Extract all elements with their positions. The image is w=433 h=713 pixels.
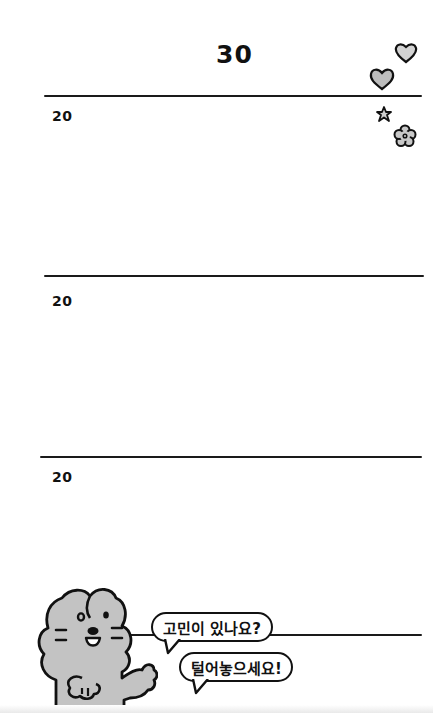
section-label: 20	[52, 469, 72, 485]
heart-icon	[394, 42, 418, 64]
bunny-illustration	[36, 584, 158, 713]
speech-text: 고민이 있나요?	[163, 620, 261, 638]
speech-bubble: 털어놓으세요!	[179, 652, 293, 682]
divider-line	[40, 456, 422, 458]
heart-icon	[369, 67, 395, 91]
section-label: 20	[52, 293, 72, 309]
page-title: 30	[0, 40, 433, 69]
section-label: 20	[52, 108, 72, 124]
bubble-tail	[192, 679, 210, 695]
divider-line	[44, 95, 422, 97]
speech-bubble: 고민이 있나요?	[151, 612, 273, 642]
bubble-tail	[164, 639, 182, 655]
divider-line	[44, 275, 424, 277]
bottom-edge	[0, 705, 433, 713]
speech-text: 털어놓으세요!	[191, 660, 282, 678]
star-icon	[375, 105, 393, 123]
flower-icon	[393, 124, 417, 148]
